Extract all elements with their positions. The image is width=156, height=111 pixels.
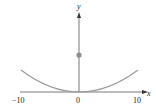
x-tick-10: 10 <box>133 96 141 105</box>
chart: x y −10 0 10 <box>0 0 156 111</box>
x-axis-label: x <box>146 89 151 98</box>
y-axis-arrow-icon <box>77 12 81 18</box>
x-tick-neg10: −10 <box>12 96 25 105</box>
y-axis-label: y <box>76 2 81 11</box>
parabola-curve <box>21 70 138 92</box>
focus-point <box>76 52 81 57</box>
x-tick-0: 0 <box>76 96 80 105</box>
